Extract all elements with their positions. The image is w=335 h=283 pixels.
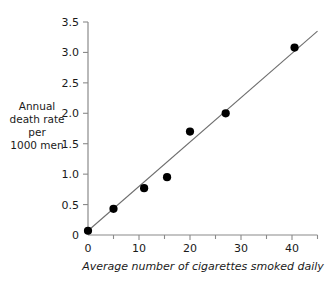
scatter-chart: 00.51.01.52.02.53.03.5 010203040 Annuald…	[0, 0, 335, 283]
y-tick-label: 0	[72, 229, 79, 242]
y-axis-label-line: per	[28, 126, 46, 138]
data-point	[163, 173, 171, 181]
data-point	[290, 43, 298, 51]
y-axis-label-line: 1000 men	[10, 139, 63, 151]
x-tick-label: 20	[183, 242, 197, 255]
y-tick-label: 3.0	[62, 46, 80, 59]
x-tick-label: 40	[285, 242, 299, 255]
y-tick-label: 2.5	[62, 77, 80, 90]
y-tick-label: 1.5	[62, 138, 80, 151]
y-tick-label: 1.0	[62, 168, 80, 181]
x-axis-label: Average number of cigarettes smoked dail…	[81, 260, 324, 273]
x-tick-label: 30	[234, 242, 248, 255]
x-tick-label: 0	[85, 242, 92, 255]
y-tick-label: 0.5	[62, 199, 80, 212]
data-point	[84, 227, 92, 235]
y-axis-label-line: Annual	[19, 100, 56, 112]
data-point	[222, 109, 230, 117]
plot-area: 00.51.01.52.02.53.03.5 010203040 Annuald…	[0, 0, 335, 283]
y-tick-label: 3.5	[62, 16, 80, 29]
x-tick-label: 10	[132, 242, 146, 255]
y-axis-label-line: death rate	[10, 113, 65, 125]
data-point	[186, 127, 194, 135]
data-point	[140, 184, 148, 192]
data-point	[109, 205, 117, 213]
